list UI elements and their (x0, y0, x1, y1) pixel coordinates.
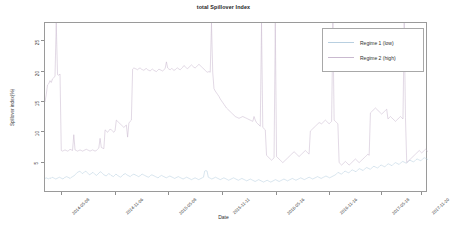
x-tick-mark (115, 192, 116, 195)
x-tick-label: 2014-05-08 (71, 197, 90, 216)
x-tick-label: 2016-11-16 (339, 197, 358, 215)
legend-swatch-regime-2 (328, 57, 354, 58)
y-axis: 510152025 (0, 22, 44, 192)
series-line-1 (45, 158, 428, 182)
x-tick-label: 2015-11-11 (232, 197, 251, 215)
x-tick-label: 2015-05-08 (178, 197, 197, 216)
x-tick-label: 2016-05-16 (286, 197, 305, 216)
x-tick-mark (381, 192, 382, 195)
x-tick-mark (168, 192, 169, 195)
y-tick-label: 15 (35, 101, 40, 106)
y-tick-label: 25 (35, 40, 40, 45)
legend-item-regime-1: Regime 1 (low) (328, 35, 418, 50)
x-tick-mark (421, 192, 422, 195)
x-tick-label: 2017-05-18 (391, 197, 410, 216)
legend-label-regime-2: Regime 2 (high) (360, 55, 396, 61)
x-tick-mark (61, 192, 62, 195)
x-tick-mark (329, 192, 330, 195)
x-tick-label: 2014-11-06 (125, 197, 144, 215)
y-tick-label: 20 (35, 71, 40, 76)
legend-swatch-regime-1 (328, 42, 354, 43)
legend-label-regime-1: Regime 1 (low) (360, 40, 394, 46)
x-tick-mark (276, 192, 277, 195)
x-axis: 2014-05-082014-11-062015-05-082015-11-11… (44, 192, 427, 231)
x-axis-title: Date (0, 214, 447, 220)
x-tick-mark (222, 192, 223, 195)
legend: Regime 1 (low) Regime 2 (high) (322, 28, 424, 72)
legend-item-regime-2: Regime 2 (high) (328, 50, 418, 65)
y-tick-label: 5 (35, 162, 40, 165)
y-tick-label: 10 (35, 131, 40, 136)
chart-title: total Spillover Index (0, 4, 447, 10)
x-tick-label: 2017-11-20 (431, 197, 450, 215)
